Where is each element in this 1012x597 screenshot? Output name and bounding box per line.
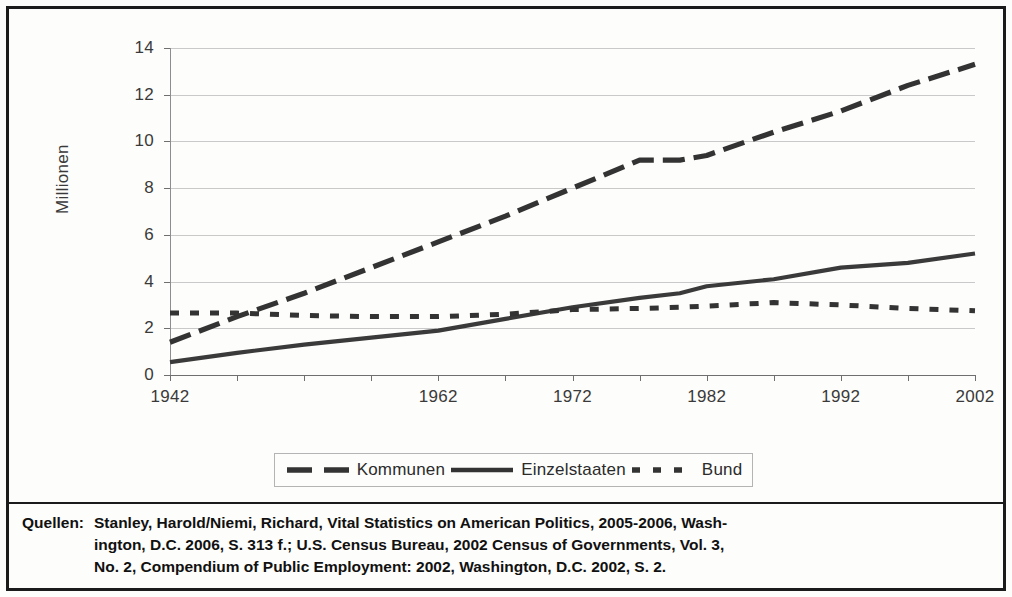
legend-item[interactable]: Bund bbox=[630, 460, 743, 480]
x-tick-mark bbox=[573, 375, 574, 381]
y-tick-label: 0 bbox=[144, 365, 154, 385]
series-line bbox=[170, 64, 975, 342]
legend-label: Bund bbox=[702, 460, 743, 480]
legend-swatch-solid bbox=[449, 463, 515, 477]
x-tick-label: 1992 bbox=[821, 387, 860, 407]
x-tick-mark bbox=[170, 375, 171, 381]
x-tick-mark bbox=[640, 375, 641, 381]
source-label: Quellen: bbox=[22, 512, 94, 578]
x-tick-mark bbox=[908, 375, 909, 381]
x-tick-mark bbox=[438, 375, 439, 381]
figure-page: Millionen 14121086420 194219621972198219… bbox=[0, 0, 1012, 597]
source-note: Quellen: Stanley, Harold/Niemi, Richard,… bbox=[22, 512, 990, 578]
x-tick-mark bbox=[774, 375, 775, 381]
chart-legend: KommunenEinzelstaatenBund bbox=[274, 453, 753, 487]
x-tick-mark bbox=[304, 375, 305, 381]
x-tick-mark bbox=[841, 375, 842, 381]
y-tick-label: 2 bbox=[144, 318, 154, 338]
plot-area: 14121086420 194219621972198219922002 bbox=[170, 48, 975, 375]
x-tick-label: 1982 bbox=[687, 387, 726, 407]
y-tick-label: 14 bbox=[134, 38, 154, 58]
legend-swatch-long-dashed bbox=[285, 463, 351, 477]
series-line bbox=[170, 303, 975, 317]
source-line-1: Stanley, Harold/Niemi, Richard, Vital St… bbox=[94, 512, 990, 534]
source-line-3: No. 2, Compendium of Public Employment: … bbox=[94, 556, 990, 578]
y-tick-label: 6 bbox=[144, 225, 154, 245]
x-tick-label: 2002 bbox=[955, 387, 994, 407]
page-border-right bbox=[1003, 6, 1006, 591]
x-tick-mark bbox=[975, 375, 976, 381]
source-divider bbox=[9, 502, 1003, 504]
x-tick-mark bbox=[237, 375, 238, 381]
series-lines bbox=[170, 48, 975, 375]
legend-item[interactable]: Kommunen bbox=[285, 460, 446, 480]
x-tick-mark bbox=[707, 375, 708, 381]
y-tick-label: 4 bbox=[144, 272, 154, 292]
legend-label: Einzelstaaten bbox=[521, 460, 626, 480]
y-tick-label: 10 bbox=[134, 131, 154, 151]
line-chart: Millionen 14121086420 194219621972198219… bbox=[9, 9, 1003, 489]
x-tick-mark bbox=[505, 375, 506, 381]
legend-swatch-short-dashed bbox=[630, 463, 696, 477]
y-tick-label: 8 bbox=[144, 178, 154, 198]
x-tick-label: 1942 bbox=[150, 387, 189, 407]
x-tick-label: 1972 bbox=[553, 387, 592, 407]
x-tick-label: 1962 bbox=[419, 387, 458, 407]
y-axis-title: Millionen bbox=[53, 144, 73, 214]
legend-label: Kommunen bbox=[357, 460, 446, 480]
y-tick-label: 12 bbox=[134, 85, 154, 105]
legend-item[interactable]: Einzelstaaten bbox=[449, 460, 626, 480]
x-tick-mark bbox=[371, 375, 372, 381]
page-border-bottom bbox=[6, 588, 1006, 591]
source-line-2: ington, D.C. 2006, S. 313 f.; U.S. Censu… bbox=[94, 534, 990, 556]
